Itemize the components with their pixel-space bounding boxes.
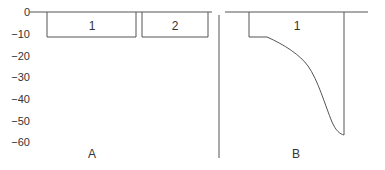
y-tick-60: −60 — [2, 136, 30, 148]
diagram-lines — [0, 0, 385, 170]
y-tick-40: −40 — [2, 93, 30, 105]
panel-b-region-1-label: 1 — [294, 20, 301, 32]
y-tick-20: −20 — [2, 50, 30, 62]
diagram-canvas: 0 −10 −20 −30 −40 −50 −60 1 2 1 A B — [0, 0, 385, 170]
panel-b-label: B — [292, 148, 300, 160]
panel-a-box-1-label: 1 — [89, 20, 96, 32]
y-tick-0: 0 — [2, 6, 30, 18]
y-tick-10: −10 — [2, 28, 30, 40]
panel-a-box-2-label: 2 — [172, 20, 179, 32]
panel-a-label: A — [88, 148, 96, 160]
y-tick-30: −30 — [2, 71, 30, 83]
y-tick-50: −50 — [2, 115, 30, 127]
